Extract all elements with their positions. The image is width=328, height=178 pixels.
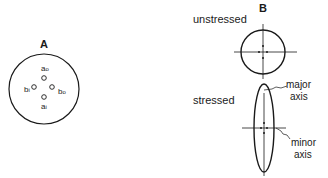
stressed-dot-bottom [263, 132, 265, 134]
stressed-dot-right [266, 127, 268, 129]
point-b-i-label: bi [24, 86, 30, 94]
point-a-i-sub: i [45, 104, 46, 110]
point-b-o-sub: o [62, 89, 65, 95]
unstressed-dot-left [258, 51, 260, 53]
diagram-drawing [0, 0, 328, 178]
unstressed-figure [234, 24, 297, 79]
minor-axis-label-line2: axis [294, 150, 312, 160]
minor-axis-leader [276, 128, 290, 139]
point-a-o-label: ao [41, 65, 49, 73]
major-axis-label-line1: major [286, 80, 311, 90]
point-b-o-marker [50, 85, 55, 90]
point-a-o-marker [42, 76, 47, 81]
diagram-canvas: A ao bi bo ai B unstressed stressed majo… [0, 0, 328, 178]
unstressed-dot-top [262, 45, 264, 47]
point-b-i-marker [32, 85, 37, 90]
unstressed-label: unstressed [193, 14, 247, 25]
point-a-o-sub: o [45, 66, 48, 72]
panel-b-label: B [259, 3, 267, 14]
point-a-i-marker [42, 95, 47, 100]
stressed-dot-left [260, 127, 262, 129]
major-axis-label-line2: axis [290, 92, 308, 102]
unstressed-dot-bottom [262, 57, 264, 59]
point-b-i-sub: i [28, 87, 29, 93]
panel-a-label: A [40, 39, 48, 50]
stressed-figure [242, 84, 290, 176]
unstressed-dot-right [266, 51, 268, 53]
point-b-o-label: bo [58, 88, 66, 96]
minor-axis-label-line1: minor [291, 138, 316, 148]
stressed-label: stressed [193, 95, 235, 106]
stressed-dot-top [263, 122, 265, 124]
point-a-i-label: ai [41, 103, 47, 111]
